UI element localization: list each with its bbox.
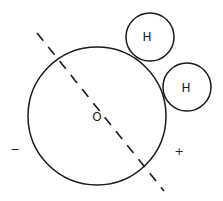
oxygen-label: O [92, 110, 101, 124]
negative-charge-label: − [10, 143, 19, 156]
diagram-svg: O H H − + [0, 0, 223, 201]
hydrogen-label-2: H [181, 81, 190, 95]
water-molecule-diagram: O H H − + [0, 0, 223, 201]
positive-charge-label: + [174, 145, 183, 158]
hydrogen-label-1: H [142, 30, 151, 44]
